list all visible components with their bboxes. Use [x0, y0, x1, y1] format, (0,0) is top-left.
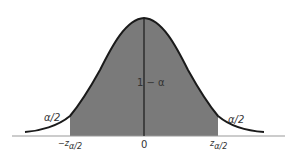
center-area-label: 1 − α: [137, 77, 165, 88]
left-cutoff-label: −zα/2: [58, 139, 82, 151]
left-cutoff-subscript: α/2: [69, 142, 82, 151]
right-tail-label: α/2: [228, 114, 244, 125]
right-cutoff-subscript: α/2: [214, 142, 227, 151]
normal-distribution-diagram: 1 − α α/2 α/2 −zα/2 0 zα/2: [0, 0, 291, 165]
right-cutoff-label: zα/2: [209, 139, 227, 151]
left-tail-label: α/2: [44, 112, 60, 123]
center-tick-label: 0: [141, 139, 147, 150]
